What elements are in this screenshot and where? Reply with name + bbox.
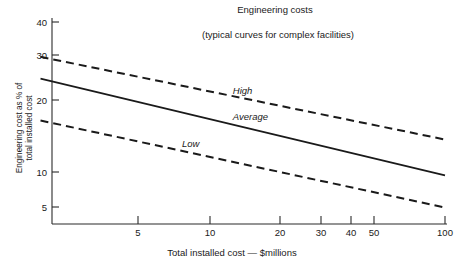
x-axis-ticks: 5 10 20 30 40 50 100 xyxy=(135,216,453,238)
chart-subtitle: (typical curves for complex facilities) xyxy=(202,29,354,40)
y-tick-label-10: 10 xyxy=(36,167,47,178)
x-tick-label-40: 40 xyxy=(346,227,357,238)
series-label-high: High xyxy=(233,85,253,96)
y-tick-label-20: 20 xyxy=(36,95,47,106)
engineering-costs-figure: Engineering costs (typical curves for co… xyxy=(0,0,459,266)
x-axis-label: Total installed cost — $millions xyxy=(167,247,297,258)
y-axis-ticks: 40 30 20 10 5 xyxy=(36,17,59,213)
series-group xyxy=(41,57,445,208)
y-axis-label-line2: total installed cost xyxy=(25,95,34,161)
x-tick-label-30: 30 xyxy=(316,227,327,238)
series-label-average: Average xyxy=(232,111,268,122)
x-tick-label-10: 10 xyxy=(205,227,216,238)
y-tick-label-5: 5 xyxy=(42,202,47,213)
chart-canvas: Engineering costs (typical curves for co… xyxy=(0,0,459,266)
chart-title: Engineering costs xyxy=(237,4,313,15)
x-tick-label-5: 5 xyxy=(135,227,140,238)
x-tick-label-20: 20 xyxy=(275,227,286,238)
y-tick-label-40: 40 xyxy=(36,17,47,28)
series-label-low: Low xyxy=(182,138,201,149)
series-line-low xyxy=(41,120,445,207)
x-tick-label-100: 100 xyxy=(437,227,453,238)
y-tick-label-30: 30 xyxy=(36,50,47,61)
y-axis-label: Engineering cost as % of total installed… xyxy=(15,82,34,173)
y-axis-label-line1: Engineering cost as % of xyxy=(15,82,24,173)
x-tick-label-50: 50 xyxy=(369,227,380,238)
